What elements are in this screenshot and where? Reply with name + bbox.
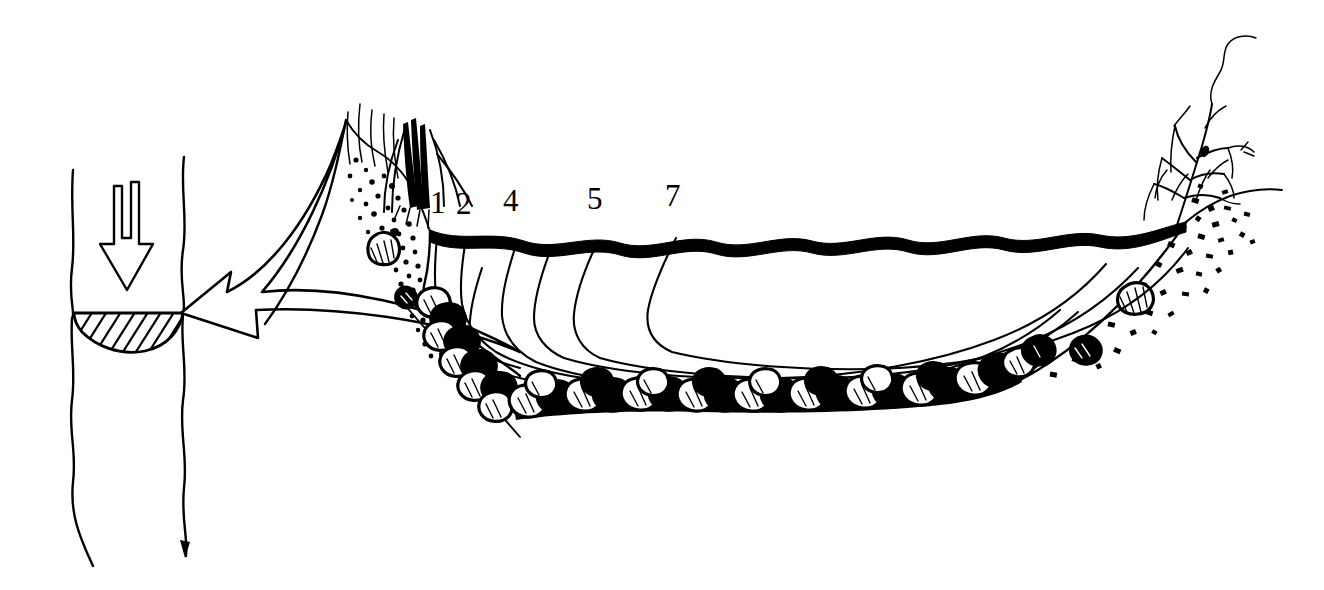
left-bank-cobble-lower xyxy=(396,287,417,308)
stage-label-1: 1 xyxy=(430,185,446,220)
stage-label-7: 7 xyxy=(665,178,681,213)
figure-root: 1 2 4 5 7 xyxy=(0,0,1324,590)
stage-label-5: 5 xyxy=(587,181,603,216)
stage-label-4: 4 xyxy=(503,183,519,218)
stage-label-2: 2 xyxy=(456,186,472,221)
diagram-canvas: 1 2 4 5 7 xyxy=(0,0,1324,590)
right-bank-cobble-dark xyxy=(1071,336,1102,364)
